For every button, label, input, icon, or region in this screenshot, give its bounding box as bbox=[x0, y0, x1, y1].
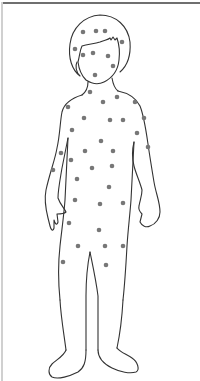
spot-shoulder-left bbox=[66, 105, 71, 110]
spot-torso bbox=[121, 201, 126, 206]
face-outline bbox=[78, 37, 119, 84]
spot-face bbox=[106, 54, 111, 59]
spot-thigh-right bbox=[121, 244, 126, 249]
spot-chest bbox=[121, 118, 126, 123]
spot-torso bbox=[110, 164, 115, 169]
right-foot-outline bbox=[98, 348, 138, 373]
spot-torso bbox=[75, 177, 80, 182]
inner-leg-right bbox=[90, 252, 98, 350]
spot-torso bbox=[73, 198, 78, 203]
spot-head bbox=[103, 29, 108, 34]
spot-thigh-right bbox=[104, 263, 109, 268]
spot-thigh-right bbox=[103, 244, 108, 249]
spot-head bbox=[81, 30, 86, 35]
body-outline-figure bbox=[0, 0, 200, 381]
spot-face bbox=[111, 64, 116, 69]
spot-hip-left bbox=[67, 221, 72, 226]
spot-torso bbox=[111, 149, 116, 154]
spot-arm-left bbox=[51, 168, 56, 173]
spot-torso bbox=[98, 202, 103, 207]
diagram-frame: child body outline bbox=[0, 0, 200, 381]
body-outline bbox=[45, 15, 160, 378]
spot-face bbox=[91, 51, 96, 56]
spot-chest bbox=[108, 118, 113, 123]
spot-thigh-left bbox=[61, 260, 66, 265]
spot-arm-right bbox=[146, 145, 151, 150]
spot-chest bbox=[82, 116, 87, 121]
spot-arm-left bbox=[59, 151, 64, 156]
spot-pelvis bbox=[97, 228, 102, 233]
inner-leg-left bbox=[86, 252, 90, 350]
outer-leg-left bbox=[60, 300, 66, 350]
spot-face bbox=[81, 53, 86, 58]
spot-arm-right bbox=[142, 116, 147, 121]
spot-head bbox=[73, 47, 78, 52]
spot-shoulder-right bbox=[133, 100, 138, 105]
spot-chest bbox=[115, 95, 120, 100]
spot-chest bbox=[101, 100, 106, 105]
spot-torso bbox=[83, 149, 88, 154]
spot-torso bbox=[107, 185, 112, 190]
right-arm-outline bbox=[118, 91, 160, 227]
spot-torso bbox=[69, 158, 74, 163]
spot-torso bbox=[135, 131, 140, 136]
outer-leg-right bbox=[117, 300, 123, 348]
spot-head bbox=[94, 29, 99, 34]
torso-right bbox=[123, 142, 134, 300]
neck-right bbox=[112, 78, 118, 91]
spot-arm-left bbox=[70, 128, 75, 133]
spot-torso bbox=[90, 166, 95, 171]
neck-left bbox=[82, 82, 88, 95]
spot-head bbox=[120, 40, 125, 45]
left-foot-outline bbox=[49, 350, 86, 378]
spot-face bbox=[93, 73, 98, 78]
spot-thigh-left bbox=[76, 244, 81, 249]
spot-neck bbox=[88, 90, 93, 95]
spot-torso bbox=[99, 139, 104, 144]
